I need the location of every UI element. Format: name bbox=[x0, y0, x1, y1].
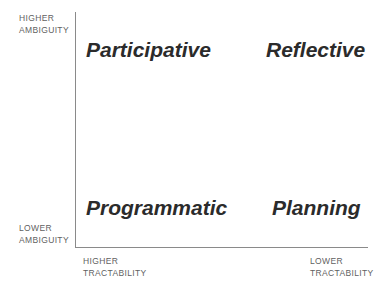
y-axis-high-label: HIGHER AMBIGUITY bbox=[19, 13, 69, 36]
x-axis-left-label-line1: HIGHER bbox=[83, 256, 118, 266]
x-axis-right-label: LOWER TRACTABILITY bbox=[310, 256, 374, 279]
x-axis-right-label-line2: TRACTABILITY bbox=[310, 268, 374, 280]
quadrant-label-top-right: Reflective bbox=[266, 37, 365, 62]
y-axis-line bbox=[75, 12, 76, 248]
quadrant-label-top-left: Participative bbox=[86, 37, 211, 62]
y-axis-low-label: LOWER AMBIGUITY bbox=[19, 223, 69, 246]
x-axis-right-label-line1: LOWER bbox=[310, 256, 343, 266]
y-axis-low-label-line1: LOWER bbox=[19, 223, 52, 233]
x-axis-left-label-line2: TRACTABILITY bbox=[83, 268, 147, 280]
quadrant-matrix-diagram: HIGHER AMBIGUITY LOWER AMBIGUITY HIGHER … bbox=[0, 0, 385, 303]
quadrant-label-bottom-right: Planning bbox=[272, 195, 361, 220]
y-axis-low-label-line2: AMBIGUITY bbox=[19, 235, 69, 247]
y-axis-high-label-line1: HIGHER bbox=[19, 13, 54, 23]
x-axis-left-label: HIGHER TRACTABILITY bbox=[83, 256, 147, 279]
y-axis-high-label-line2: AMBIGUITY bbox=[19, 25, 69, 37]
x-axis-line bbox=[75, 247, 368, 248]
quadrant-label-bottom-left: Programmatic bbox=[86, 195, 227, 220]
